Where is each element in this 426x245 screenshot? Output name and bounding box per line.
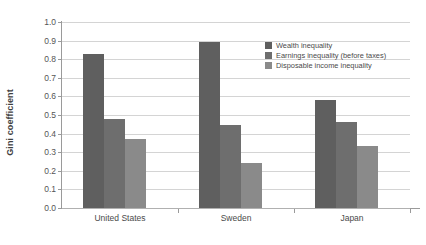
legend-label: Wealth inequality [276,41,332,50]
legend-swatch-icon [265,52,272,59]
x-axis-category-label: United States [62,213,178,223]
y-axis-tick-label: 0.3 [18,148,56,157]
legend-item: Earnings inequality (before taxes) [265,51,386,60]
gridline [62,22,410,23]
y-axis-tick-label: 0.5 [18,111,56,120]
y-axis-tick-label: 0.9 [18,37,56,46]
legend: Wealth inequalityEarnings inequality (be… [265,41,386,70]
legend-label: Earnings inequality (before taxes) [276,51,386,60]
y-axis-tick-label: 0.1 [18,185,56,194]
bar [125,139,146,208]
legend-item: Disposable income inequality [265,61,386,70]
y-axis-tick-mark [58,78,62,79]
gridline [62,115,410,116]
x-axis-group-separator [410,209,411,213]
y-axis-tick-mark [58,115,62,116]
y-axis-tick-mark [58,41,62,42]
bar [336,122,357,208]
x-axis-group-separator [294,209,295,213]
y-axis-tick-label: 0.4 [18,130,56,139]
y-axis-tick-label: 0.2 [18,167,56,176]
y-axis-tick-mark [58,134,62,135]
gridline [62,208,410,209]
x-axis-category-label: Sweden [178,213,294,223]
bar [315,100,336,208]
y-axis-tick-label: 0.0 [18,204,56,213]
y-axis-tick-mark [58,59,62,60]
y-axis-tick-label: 0.7 [18,74,56,83]
x-axis-category-label: Japan [294,213,410,223]
y-axis-tick-mark [58,189,62,190]
bar [83,54,104,208]
bar [104,119,125,208]
y-axis-tick-label: 0.6 [18,92,56,101]
y-axis-tick-mark [58,96,62,97]
legend-swatch-icon [265,42,272,49]
x-axis-group-separator [178,209,179,213]
legend-label: Disposable income inequality [276,61,372,70]
y-axis-tick-mark [58,208,62,209]
y-axis-title: Gini coefficient [0,0,20,245]
gini-coefficient-bar-chart: Gini coefficient 1.00.90.80.70.60.50.40.… [0,0,426,245]
y-axis-tick-mark [58,171,62,172]
y-axis-tick-mark [58,152,62,153]
bar [220,125,241,208]
gridline [62,78,410,79]
gridline [62,96,410,97]
y-axis-tick-mark [58,22,62,23]
bar [357,146,378,208]
legend-swatch-icon [265,62,272,69]
bar [199,42,220,208]
bar [241,163,262,208]
legend-item: Wealth inequality [265,41,386,50]
y-axis-tick-label: 1.0 [18,18,56,27]
y-axis-tick-label: 0.8 [18,55,56,64]
